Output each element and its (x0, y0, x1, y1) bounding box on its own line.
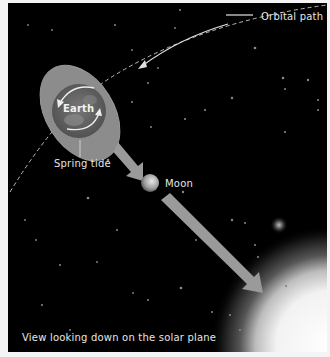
sun (210, 225, 327, 352)
orbit-direction-arrowhead (138, 60, 147, 69)
diagram-panel: Orbital path Earth Spring tide Moon View… (8, 3, 327, 352)
moon (141, 174, 159, 192)
orbital-path-label: Orbital path (261, 11, 323, 22)
moon-label: Moon (165, 178, 193, 189)
spring-tide-label: Spring tide (54, 158, 111, 169)
earth-label: Earth (63, 103, 94, 114)
caption: View looking down on the solar plane (22, 332, 216, 343)
moon-to-sun-arrow (161, 193, 263, 293)
fuzzy-star (270, 216, 288, 234)
